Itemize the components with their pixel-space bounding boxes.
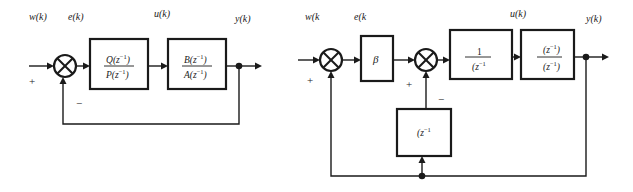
signal-label-y: y(k) (585, 13, 602, 25)
gain-block: β (361, 36, 393, 81)
block-diagrams-figure: w(k) e(k) u(k) y(k) + − Q(z−1) P(z−1) (0, 0, 633, 192)
controller-denominator: P(z−1) (105, 68, 129, 81)
prefilter-numerator: 1 (477, 47, 482, 57)
arrow-icon (328, 71, 335, 78)
minus-sign: − (76, 97, 82, 109)
plus-sign: + (29, 75, 35, 87)
controller-block: Q(z−1) P(z−1) (90, 39, 148, 89)
plant-denominator: A(z−1) (183, 68, 207, 81)
plus-sign: + (307, 74, 313, 86)
arrow-icon (602, 54, 609, 61)
prefilter-block: 1 (z−1 (450, 30, 512, 79)
signal-label-u: u(k) (510, 8, 527, 20)
controller-numerator: Q(z−1) (106, 53, 130, 66)
inner-summing-junction (415, 49, 437, 71)
minus-sign: − (438, 93, 444, 105)
plus-sign: + (406, 78, 412, 90)
arrow-icon (423, 71, 430, 78)
outer-summing-junction (320, 49, 342, 71)
beta-label: β (372, 53, 379, 65)
signal-label-e: e(k (354, 11, 367, 23)
arrow-icon (255, 63, 262, 70)
plant-block: (z−1) (z−1) (521, 30, 574, 79)
feedback-block: (z−1 (397, 109, 451, 156)
signal-label-w: w(k) (29, 11, 47, 23)
diagram-simple-feedback: w(k) e(k) u(k) y(k) + − Q(z−1) P(z−1) (29, 8, 262, 124)
signal-label-e: e(k) (68, 11, 84, 23)
signal-label-w: w(k (305, 11, 320, 23)
diagram-two-loop: w(k e(k u(k) y(k) + β + − (298, 8, 609, 179)
signal-label-u: u(k) (154, 8, 171, 20)
signal-label-y: y(k) (234, 13, 251, 25)
plant-block: B(z−1) A(z−1) (168, 39, 226, 89)
summing-junction (54, 55, 76, 77)
plant-numerator: B(z−1) (184, 53, 207, 66)
